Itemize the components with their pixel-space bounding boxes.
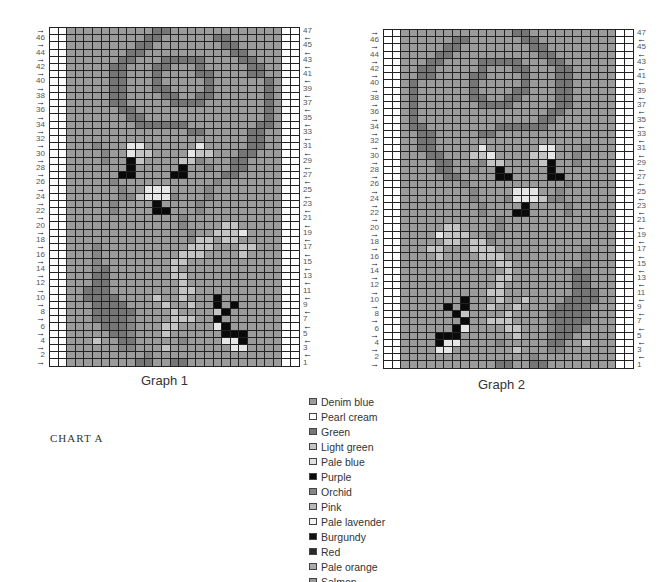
- grid-cell: [153, 345, 162, 352]
- grid-cell: [608, 131, 617, 138]
- chart-grid: [49, 27, 300, 367]
- grid-cell: [153, 237, 162, 244]
- grid-cell: [427, 261, 436, 268]
- grid-cell: [231, 165, 240, 172]
- grid-cell: [50, 259, 59, 266]
- grid-cell: [179, 338, 188, 345]
- grid-cell: [427, 37, 436, 44]
- grid-cell: [102, 309, 111, 316]
- grid-cell: [599, 268, 608, 275]
- grid-cell: [487, 268, 496, 275]
- grid-cell: [530, 116, 539, 123]
- grid-cell: [444, 304, 453, 311]
- grid-cell: [59, 165, 68, 172]
- grid-cell: [231, 35, 240, 42]
- grid-cell: [565, 30, 574, 37]
- grid-cell: [59, 100, 68, 107]
- grid-cell: [556, 318, 565, 325]
- grid-cell: [591, 210, 600, 217]
- grid-cell: [418, 80, 427, 87]
- grid-cell: [145, 50, 154, 57]
- grid-cell: [616, 354, 625, 361]
- grid-cell: [76, 93, 85, 100]
- grid-cell: [625, 174, 634, 181]
- grid-cell: [496, 311, 505, 318]
- grid-cell: [102, 338, 111, 345]
- grid-cell: [179, 71, 188, 78]
- grid-cell: [282, 280, 291, 287]
- grid-cell: [616, 88, 625, 95]
- grid-cell: [102, 201, 111, 208]
- legend-label: Pale lavender: [321, 516, 385, 528]
- grid-cell: [522, 340, 531, 347]
- grid-cell: [291, 323, 300, 330]
- grid-cell: [401, 152, 410, 159]
- grid-cell: [76, 352, 85, 359]
- grid-cell: [496, 224, 505, 231]
- grid-cell: [427, 203, 436, 210]
- grid-cell: [188, 266, 197, 273]
- grid-cell: [257, 100, 266, 107]
- grid-cell: [573, 59, 582, 66]
- grid-cell: [257, 259, 266, 266]
- grid-cell: [214, 136, 223, 143]
- grid-cell: [110, 215, 119, 222]
- grid-cell: [188, 71, 197, 78]
- grid-cell: [153, 251, 162, 258]
- grid-cell: [76, 64, 85, 71]
- grid-cell: [418, 253, 427, 260]
- grid-cell: [565, 80, 574, 87]
- grid-cell: [59, 93, 68, 100]
- grid-cell: [153, 136, 162, 143]
- grid-cell: [522, 282, 531, 289]
- grid-cell: [522, 203, 531, 210]
- grid-cell: [119, 158, 128, 165]
- grid-cell: [505, 246, 514, 253]
- grid-cell: [67, 158, 76, 165]
- grid-cell: [513, 268, 522, 275]
- grid-cell: [513, 282, 522, 289]
- grid-cell: [171, 158, 180, 165]
- grid-cell: [616, 66, 625, 73]
- grid-cell: [384, 203, 393, 210]
- grid-cell: [59, 302, 68, 309]
- grid-cell: [384, 109, 393, 116]
- grid-cell: [282, 215, 291, 222]
- grid-cell: [565, 325, 574, 332]
- grid-cell: [257, 165, 266, 172]
- grid-cell: [291, 35, 300, 42]
- grid-cell: [418, 152, 427, 159]
- grid-cell: [67, 42, 76, 49]
- grid-cell: [119, 222, 128, 229]
- grid-cell: [67, 302, 76, 309]
- grid-cell: [582, 261, 591, 268]
- grid-cell: [231, 215, 240, 222]
- grid-cell: [548, 318, 557, 325]
- grid-cell: [67, 186, 76, 193]
- grid-cell: [616, 109, 625, 116]
- grid-cell: [196, 50, 205, 57]
- grid-cell: [453, 66, 462, 73]
- grid-cell: [599, 188, 608, 195]
- grid-cell: [282, 338, 291, 345]
- grid-cell: [582, 152, 591, 159]
- grid-cell: [453, 333, 462, 340]
- grid-cell: [479, 73, 488, 80]
- grid-cell: [265, 100, 274, 107]
- grid-cell: [119, 208, 128, 215]
- grid-cell: [239, 244, 248, 251]
- grid-cell: [453, 217, 462, 224]
- grid-cell: [582, 138, 591, 145]
- grid-cell: [496, 268, 505, 275]
- grid-cell: [548, 289, 557, 296]
- grid-cell: [539, 174, 548, 181]
- grid-cell: [67, 215, 76, 222]
- grid-cell: [548, 224, 557, 231]
- grid-cell: [427, 318, 436, 325]
- grid-cell: [444, 217, 453, 224]
- grid-cell: [625, 268, 634, 275]
- grid-cell: [153, 57, 162, 64]
- grid-cell: [393, 145, 402, 152]
- grid-cell: [102, 42, 111, 49]
- grid-cell: [50, 222, 59, 229]
